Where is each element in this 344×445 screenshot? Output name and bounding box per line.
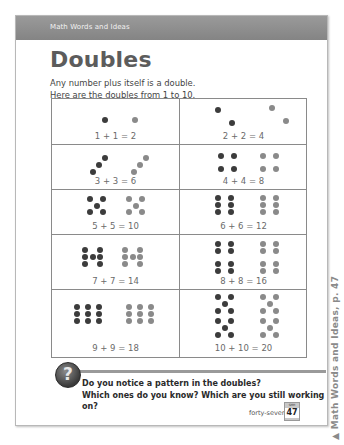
light-dot — [269, 105, 275, 111]
dark-dot — [85, 311, 91, 317]
dark-dot — [215, 241, 221, 247]
dark-dot — [82, 261, 88, 267]
dark-dot — [228, 294, 234, 300]
dark-dot — [215, 294, 221, 300]
light-dot — [260, 261, 266, 267]
double-cell-1: 1 + 1 = 2 — [52, 99, 180, 145]
light-dot — [260, 241, 266, 247]
light-dot — [273, 153, 279, 159]
light-dot — [139, 196, 145, 202]
light-dot — [260, 202, 266, 208]
double-cell-7: 7 + 7 = 14 — [52, 235, 180, 290]
dark-dot — [228, 268, 234, 274]
light-dot — [139, 209, 145, 215]
double-equation: 6 + 6 = 12 — [180, 221, 307, 231]
page-number: 47 — [285, 408, 299, 418]
dark-dot — [222, 325, 228, 331]
light-dot — [260, 153, 266, 159]
badge-label: SMH — [285, 403, 299, 407]
light-dot — [137, 247, 143, 253]
light-dot — [273, 318, 279, 324]
light-dot — [143, 155, 149, 161]
light-dot — [273, 209, 279, 215]
dark-dot — [102, 117, 108, 123]
dark-dot — [100, 209, 106, 215]
light-dot — [273, 332, 279, 338]
light-dot — [122, 261, 128, 267]
light-dot — [273, 241, 279, 247]
double-equation: 1 + 1 = 2 — [52, 131, 179, 141]
light-dot — [148, 304, 154, 310]
dark-dot — [231, 153, 237, 159]
dark-dot — [90, 169, 96, 175]
dark-dot — [215, 318, 221, 324]
light-dot — [148, 311, 154, 317]
dark-dot — [94, 203, 100, 209]
dark-dot — [218, 153, 224, 159]
light-dot — [267, 301, 273, 307]
dark-dot — [85, 304, 91, 310]
dark-dot — [96, 162, 102, 168]
double-equation: 10 + 10 = 20 — [180, 343, 307, 353]
page-title: Doubles — [50, 47, 152, 72]
light-dot — [122, 254, 128, 260]
dark-dot — [228, 308, 234, 314]
page-number-badge: SMH 47 — [284, 402, 300, 421]
dark-dot — [215, 209, 221, 215]
textbook-page: Math Words and Ideas Doubles Any number … — [15, 15, 328, 426]
light-dot — [137, 304, 143, 310]
dark-dot — [228, 209, 234, 215]
light-dot — [137, 318, 143, 324]
section-label: Math Words and Ideas — [50, 23, 130, 31]
dark-dot — [215, 248, 221, 254]
light-dot — [137, 254, 143, 260]
light-dot — [260, 268, 266, 274]
light-dot — [267, 325, 273, 331]
divider-bar — [76, 370, 326, 373]
light-dot — [137, 261, 143, 267]
doubles-table: 1 + 1 = 22 + 2 = 43 + 3 = 64 + 4 = 85 + … — [51, 98, 307, 358]
dark-dot — [228, 248, 234, 254]
double-equation: 9 + 9 = 18 — [52, 343, 179, 353]
side-caption: ▲ Math Words and Ideas, p. 47 — [330, 276, 340, 440]
dark-dot — [90, 254, 96, 260]
page-number-word: forty-seven — [249, 409, 286, 417]
double-equation: 8 + 8 = 16 — [180, 276, 307, 286]
light-dot — [273, 195, 279, 201]
dark-dot — [85, 318, 91, 324]
dark-dot — [102, 155, 108, 161]
light-dot — [273, 294, 279, 300]
light-dot — [137, 162, 143, 168]
dark-dot — [96, 311, 102, 317]
light-dot — [132, 117, 138, 123]
double-equation: 2 + 2 = 4 — [180, 131, 307, 141]
double-cell-10: 10 + 10 = 20 — [180, 290, 307, 357]
dark-dot — [215, 195, 221, 201]
light-dot — [260, 318, 266, 324]
light-dot — [260, 209, 266, 215]
dark-dot — [96, 304, 102, 310]
light-dot — [273, 202, 279, 208]
dark-dot — [215, 268, 221, 274]
light-dot — [131, 169, 137, 175]
intro-line-1: Any number plus itself is a double. — [50, 78, 195, 90]
question-mark-icon: ? — [55, 362, 81, 388]
dark-dot — [228, 195, 234, 201]
light-dot — [260, 308, 266, 314]
light-dot — [260, 248, 266, 254]
dark-dot — [74, 304, 80, 310]
dark-dot — [97, 261, 103, 267]
light-dot — [260, 332, 266, 338]
dark-dot — [231, 166, 237, 172]
light-dot — [273, 308, 279, 314]
dark-dot — [218, 166, 224, 172]
dark-dot — [228, 261, 234, 267]
double-equation: 4 + 4 = 8 — [180, 176, 307, 186]
dark-dot — [228, 241, 234, 247]
light-dot — [126, 311, 132, 317]
dark-dot — [87, 196, 93, 202]
page-header: Math Words and Ideas — [16, 16, 327, 40]
light-dot — [126, 209, 132, 215]
dark-dot — [228, 202, 234, 208]
dark-dot — [82, 247, 88, 253]
